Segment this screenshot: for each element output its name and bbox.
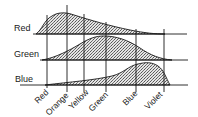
- row-label-blue: Blue: [15, 74, 33, 84]
- column-label-green: Green: [86, 89, 110, 113]
- column-label-red: Red: [32, 87, 50, 105]
- column-label-blue: Blue: [120, 88, 139, 107]
- cone-sensitivity-diagram: Red Green Blue Red Orange Yellow Green B…: [0, 0, 198, 117]
- row-label-red: Red: [14, 23, 31, 33]
- green-sensitivity-curve: [42, 36, 172, 60]
- column-label-violet: Violet: [142, 89, 164, 111]
- red-sensitivity-curve: [36, 13, 165, 34]
- row-label-green: Green: [14, 49, 39, 59]
- blue-sensitivity-curve: [45, 63, 170, 85]
